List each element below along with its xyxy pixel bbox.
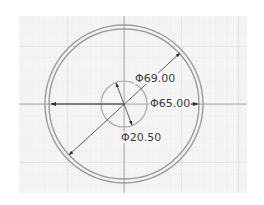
dimension-d65-label[interactable]: Φ65.00 (149, 98, 191, 109)
dimension-d20-label[interactable]: Φ20.50 (120, 132, 162, 143)
sketch-canvas[interactable] (0, 0, 264, 205)
dimension-d69-label[interactable]: Φ69.00 (134, 73, 176, 84)
